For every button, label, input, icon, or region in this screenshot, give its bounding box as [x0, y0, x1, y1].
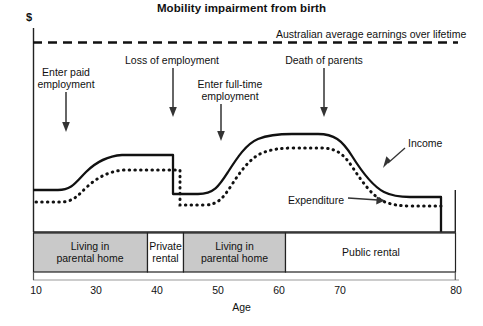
leader-line-income: [388, 148, 405, 163]
x-tick-label-10: 10: [21, 284, 51, 296]
arrow-head-enter-paid-employment: [62, 122, 70, 132]
housing-segment-living-parental-home-1[interactable]: [34, 233, 148, 272]
arrow-head-death-of-parents: [320, 107, 328, 117]
series-line-income: [33, 134, 441, 232]
x-tick-label-70: 70: [325, 284, 355, 296]
x-tick-label-30: 30: [81, 284, 111, 296]
arrow-head-loss-of-employment: [169, 107, 177, 117]
leader-line-expenditure: [348, 198, 378, 200]
housing-segment-private-rental[interactable]: [148, 233, 184, 272]
x-axis-title: Age: [0, 301, 483, 313]
leader-arrow-expenditure: [376, 197, 385, 205]
x-tick-label-40: 40: [142, 284, 172, 296]
arrow-head-enter-full-time-employment: [217, 131, 225, 141]
housing-segment-living-parental-home-2[interactable]: [184, 233, 286, 272]
chart-canvas: [0, 0, 483, 326]
housing-segment-public-rental[interactable]: [286, 233, 456, 272]
chart-figure: Mobility impairment from birth $ Austral…: [0, 0, 483, 326]
x-tick-label-60: 60: [264, 284, 294, 296]
x-tick-label-80: 80: [441, 284, 471, 296]
x-tick-label-50: 50: [203, 284, 233, 296]
